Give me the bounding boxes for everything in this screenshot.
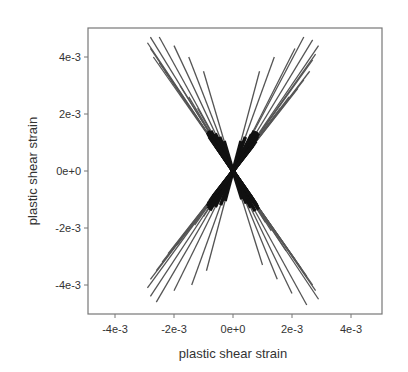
y-tick-label: 2e-3 bbox=[59, 108, 81, 120]
x-axis-ticks: -4e-3-2e-30e+02e-34e-3 bbox=[102, 314, 362, 335]
x-tick-label: 2e-3 bbox=[281, 323, 303, 335]
y-axis-ticks: 4e-32e-30e+0-2e-3-4e-3 bbox=[55, 51, 88, 291]
x-axis-label: plastic shear strain bbox=[179, 346, 287, 361]
y-tick-label: -4e-3 bbox=[55, 279, 81, 291]
strain-path-lines bbox=[147, 37, 318, 305]
y-tick-label: 0e+0 bbox=[56, 165, 81, 177]
x-tick-label: 4e-3 bbox=[340, 323, 362, 335]
x-tick-label: -2e-3 bbox=[161, 323, 187, 335]
x-tick-label: 0e+0 bbox=[221, 323, 246, 335]
y-tick-label: -2e-3 bbox=[55, 222, 81, 234]
strain-path-chart: -4e-3-2e-30e+02e-34e-3 4e-32e-30e+0-2e-3… bbox=[0, 0, 408, 372]
y-tick-label: 4e-3 bbox=[59, 51, 81, 63]
x-tick-label: -4e-3 bbox=[102, 323, 128, 335]
y-axis-label: plastic shear strain bbox=[25, 117, 40, 225]
